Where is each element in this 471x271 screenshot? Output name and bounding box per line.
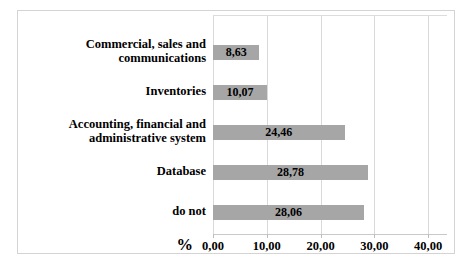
x-tick-label: 30,00 xyxy=(344,239,404,254)
bar-value-label: 28,06 xyxy=(213,205,364,220)
bar: 8,63 xyxy=(213,45,259,60)
gridline xyxy=(428,16,429,234)
bar-value-label: 24,46 xyxy=(213,125,345,140)
gridline xyxy=(374,16,375,234)
bar: 28,06 xyxy=(213,205,364,220)
x-tick-label: 20,00 xyxy=(291,239,351,254)
bar: 28,78 xyxy=(213,165,368,180)
bar-value-label: 28,78 xyxy=(213,165,368,180)
bar-value-label: 10,07 xyxy=(213,85,267,100)
category-label: Accounting, financial and administrative… xyxy=(24,117,206,145)
x-tick-label: 0,00 xyxy=(183,239,243,254)
x-axis-tick xyxy=(267,234,268,238)
category-label: Commercial, sales and communications xyxy=(24,37,206,65)
x-tick-label: 40,00 xyxy=(398,239,458,254)
category-label: do not xyxy=(24,204,206,218)
bar: 24,46 xyxy=(213,125,345,140)
x-tick-label: 10,00 xyxy=(237,239,297,254)
bar: 10,07 xyxy=(213,85,267,100)
plot-area: 8,6310,0724,4628,7828,06 xyxy=(213,15,447,235)
x-axis-tick xyxy=(428,234,429,238)
x-axis-tick xyxy=(374,234,375,238)
chart-frame: 8,6310,0724,4628,7828,06 Commercial, sal… xyxy=(17,10,455,254)
x-axis-tick xyxy=(321,234,322,238)
x-axis-tick xyxy=(213,234,214,238)
category-label: Inventories xyxy=(24,84,206,98)
category-label: Database xyxy=(24,164,206,178)
bar-value-label: 8,63 xyxy=(213,45,259,60)
category-axis: Commercial, sales and communicationsInve… xyxy=(24,15,206,233)
